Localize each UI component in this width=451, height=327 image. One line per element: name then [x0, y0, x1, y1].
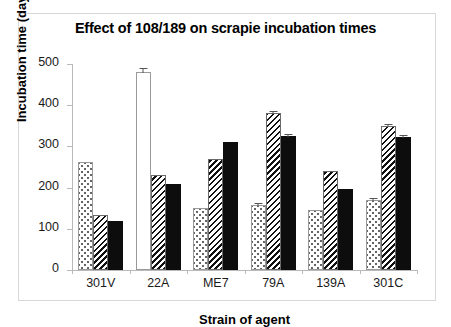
x-tick-label: 301V [72, 276, 130, 290]
error-bar [288, 134, 289, 137]
x-tick [302, 270, 303, 274]
error-bar [403, 135, 404, 138]
bar-group: 301C [360, 64, 418, 270]
y-tick-label: 200 [19, 179, 59, 193]
x-tick [130, 270, 131, 274]
x-tick [187, 270, 188, 274]
y-axis-title: Incubation time (days) [14, 0, 29, 122]
x-tick-label: 139A [302, 276, 360, 290]
x-tick-label: 301C [360, 276, 418, 290]
y-tick-label: 100 [19, 220, 59, 234]
bar-solid [166, 184, 181, 270]
error-bar [388, 124, 389, 127]
bar-group-bars [245, 64, 303, 270]
bar-group: ME7 [187, 64, 245, 270]
bar-open [136, 72, 151, 270]
bar-hatched [208, 159, 223, 270]
bar-dotted [78, 162, 93, 270]
bar-dotted [193, 208, 208, 270]
bar-group-bars [187, 64, 245, 270]
bar-solid [338, 189, 353, 270]
y-tick-label: 0 [19, 261, 59, 275]
bar-dotted [366, 200, 381, 270]
bar-group-bars [360, 64, 418, 270]
bar-hatched [381, 126, 396, 270]
error-bar [258, 203, 259, 206]
bar-group-bars [302, 64, 360, 270]
error-bar [273, 111, 274, 114]
x-tick-label: ME7 [187, 276, 245, 290]
x-tick-label: 79A [245, 276, 303, 290]
bar-solid [396, 137, 411, 270]
bar-group-bars [72, 64, 130, 270]
bar-solid [281, 136, 296, 270]
bar-hatched [266, 113, 281, 270]
y-tick-label: 300 [19, 137, 59, 151]
x-tick [72, 270, 73, 274]
plot-area: 0100200300400500 Incubation time (days) … [72, 64, 417, 270]
x-tick [245, 270, 246, 274]
bar-group: 301V [72, 64, 130, 270]
bar-group: 79A [245, 64, 303, 270]
bar-dotted [308, 210, 323, 270]
chart-title: Effect of 108/189 on scrapie incubation … [0, 20, 451, 36]
error-bar [143, 68, 144, 73]
bar-hatched [93, 215, 108, 270]
bar-group: 22A [130, 64, 188, 270]
x-tick-label: 22A [130, 276, 188, 290]
bar-hatched [323, 171, 338, 270]
bar-group: 139A [302, 64, 360, 270]
bar-dotted [251, 205, 266, 270]
error-bar [373, 198, 374, 201]
x-axis-title: Strain of agent [72, 312, 417, 327]
bar-group-bars [130, 64, 188, 270]
bar-solid [108, 221, 123, 270]
bar-solid [223, 142, 238, 270]
x-tick [360, 270, 361, 274]
bar-hatched [151, 175, 166, 270]
x-tick [417, 270, 418, 274]
